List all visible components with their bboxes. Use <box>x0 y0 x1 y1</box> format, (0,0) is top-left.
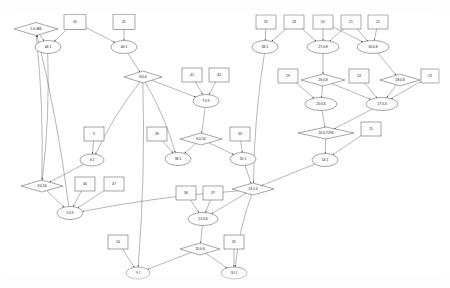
node-label: 36 <box>184 191 188 195</box>
node-label: 41 <box>122 20 126 24</box>
node-n2[interactable]: 2:0.9 <box>57 207 83 220</box>
edge-n8-n7 <box>152 80 196 97</box>
node-n42[interactable]: 42 <box>209 68 229 82</box>
edge-n8-n9 <box>138 83 143 267</box>
edge-n1-n44 <box>40 34 44 40</box>
edge-n3-n1 <box>36 35 42 180</box>
node-label: 11:0.6 <box>195 247 204 251</box>
node-label: 13:1.0 <box>248 187 258 191</box>
node-label: 46 <box>83 182 87 186</box>
node-n24[interactable]: 24 <box>349 69 369 83</box>
node-n10[interactable]: 10 <box>108 235 128 249</box>
edge-n20-n30b <box>333 27 363 42</box>
node-n23[interactable]: 23 <box>421 69 439 83</box>
node-n14[interactable]: 14:1 <box>312 154 338 167</box>
node-n36[interactable]: 36 <box>176 186 196 200</box>
node-n38[interactable]: 38:1 <box>165 153 191 166</box>
node-n41t[interactable]: 41 <box>113 15 135 30</box>
diagram-canvas: 1:0.486454144:140:18:0.641427:0.95396:0.… <box>0 0 450 288</box>
node-n26[interactable]: 26:0.8 <box>301 74 345 86</box>
edge-n29-n25 <box>296 83 314 98</box>
node-label: 17:0.4 <box>377 102 387 106</box>
node-n13[interactable]: 13:1.0 <box>232 183 274 195</box>
node-n44[interactable]: 44:1 <box>35 41 61 54</box>
node-n41b[interactable]: 41 <box>182 68 202 82</box>
edge-n8-n4 <box>96 82 140 154</box>
node-n6[interactable]: 6:0.54 <box>180 133 222 145</box>
node-n37[interactable]: 37 <box>203 186 223 200</box>
node-n22[interactable]: 22 <box>368 15 388 29</box>
node-n7[interactable]: 7:0.9 <box>193 95 219 108</box>
node-n28[interactable]: 28 <box>284 15 304 29</box>
node-n32[interactable]: 32:1 <box>230 153 256 166</box>
edge-n26-n17 <box>332 84 371 100</box>
edge-n26-n25 <box>322 86 323 98</box>
node-label: 33 <box>238 132 242 136</box>
node-n9[interactable]: 9:1 <box>126 267 150 279</box>
graph-svg: 1:0.486454144:140:18:0.641427:0.95396:0.… <box>0 0 450 288</box>
edge-n3-n2 <box>47 191 64 208</box>
node-n20[interactable]: 20 <box>313 15 333 29</box>
edge-n7-n6 <box>202 107 205 133</box>
node-label: 38:1 <box>175 157 182 161</box>
node-n47[interactable]: 47 <box>104 177 124 191</box>
node-label: 39 <box>155 132 159 136</box>
edge-n25-n16 <box>322 110 325 127</box>
edge-n22-n30b <box>374 29 376 41</box>
node-n40[interactable]: 40:1 <box>111 41 137 54</box>
node-label: 21 <box>349 20 353 24</box>
node-n31[interactable]: 31 <box>224 235 244 249</box>
edge-n13-n30 <box>235 195 251 267</box>
node-label: 37 <box>211 191 215 195</box>
node-label: 47 <box>112 182 116 186</box>
node-n1[interactable]: 1:0.486 <box>14 23 58 36</box>
node-label: 30:1 <box>231 271 238 275</box>
node-n33[interactable]: 33 <box>230 127 250 141</box>
edge-n11-n9 <box>147 252 191 269</box>
edge-n15-n14 <box>333 136 361 155</box>
node-label: 41 <box>190 73 194 77</box>
edge-n33-n32 <box>241 141 242 153</box>
node-label: 2:0.9 <box>66 211 74 215</box>
node-label: 1:0.486 <box>30 27 41 31</box>
node-label: 5 <box>93 132 95 136</box>
node-n27[interactable]: 27:0.8 <box>307 41 339 54</box>
node-n39[interactable]: 39 <box>147 127 167 141</box>
node-label: 31 <box>232 240 236 244</box>
node-label: 4:1 <box>90 158 95 162</box>
node-n30b[interactable]: 30:0.8 <box>357 41 389 54</box>
node-n21[interactable]: 21 <box>341 15 361 29</box>
edge-n28-n34 <box>272 29 286 41</box>
node-n17[interactable]: 17:0.4 <box>366 98 398 111</box>
node-n35[interactable]: 35 <box>256 15 276 29</box>
node-label: 27:0.8 <box>318 45 328 49</box>
node-n30[interactable]: 30:1 <box>221 267 247 279</box>
node-label: 32:1 <box>240 157 247 161</box>
node-n25[interactable]: 25:0.6 <box>305 98 337 111</box>
edge-layer <box>36 27 421 269</box>
node-n18[interactable]: 18:0.8 <box>380 74 420 86</box>
node-n45[interactable]: 45 <box>64 15 86 30</box>
node-n15[interactable]: 15 <box>361 122 381 136</box>
node-label: 26:0.8 <box>318 78 328 82</box>
node-n46[interactable]: 46 <box>75 177 95 191</box>
edge-n28-n27 <box>302 29 316 41</box>
edge-n18-n17 <box>387 85 397 98</box>
node-label: 15 <box>369 127 373 131</box>
node-n11[interactable]: 11:0.6 <box>180 243 220 255</box>
node-label: 44:1 <box>45 45 52 49</box>
node-n34[interactable]: 34:1 <box>252 41 278 54</box>
edge-n16-n14 <box>325 139 326 154</box>
node-n29[interactable]: 29 <box>278 69 298 83</box>
node-n16[interactable]: 16:0.7296 <box>298 127 354 139</box>
node-n8[interactable]: 8:0.6 <box>124 71 162 83</box>
edge-n45-n44 <box>54 30 67 42</box>
edge-n47-n2 <box>78 191 104 208</box>
node-n12[interactable]: 12:0.6 <box>188 213 218 226</box>
node-n3[interactable]: 3:0.54 <box>21 180 63 192</box>
edge-n36-n12 <box>191 200 199 213</box>
edge-n14-n13 <box>262 164 315 185</box>
node-n5[interactable]: 5 <box>84 127 104 141</box>
edge-n32-n13 <box>245 165 251 183</box>
node-n4[interactable]: 4:1 <box>80 154 104 166</box>
